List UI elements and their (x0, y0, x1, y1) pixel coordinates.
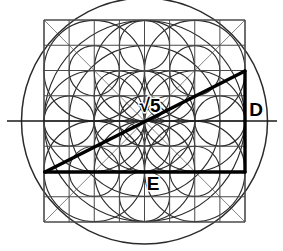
side-d-label: D (249, 99, 263, 120)
figure-canvas: √5DE (0, 0, 283, 251)
side-e-label: E (147, 173, 160, 194)
hypotenuse-label: √5 (140, 95, 161, 116)
geometric-figure: √5DE (0, 0, 283, 251)
figure-background (0, 0, 283, 251)
